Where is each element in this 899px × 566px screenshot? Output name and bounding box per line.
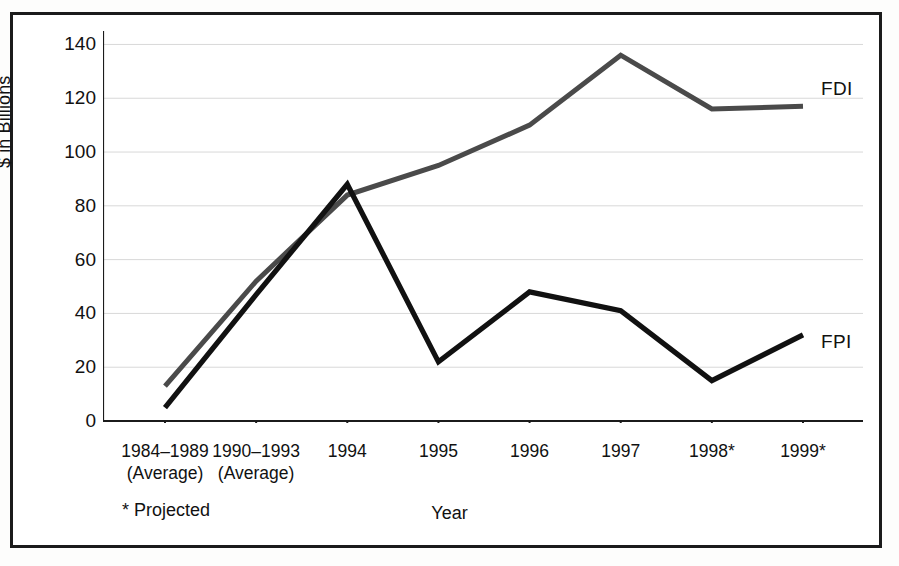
x-tick-line-1: 1984–1989 — [121, 440, 209, 462]
chart-svg — [103, 31, 863, 423]
x-axis-tick-labels: 1984–1989(Average)1990–1993(Average)1994… — [103, 432, 863, 492]
series-label-fdi: FDI — [821, 78, 853, 100]
y-tick-100: 100 — [50, 141, 96, 163]
y-tick-140: 140 — [50, 33, 96, 55]
x-tick-2: 1994 — [328, 440, 367, 462]
x-tick-5: 1997 — [601, 440, 640, 462]
x-tick-line-1: 1994 — [328, 440, 367, 462]
x-tick-0: 1984–1989(Average) — [121, 440, 209, 485]
x-tick-line-1: 1999* — [780, 440, 826, 462]
series-label-fpi: FPI — [821, 331, 851, 353]
plot-area — [103, 31, 863, 423]
x-tick-1: 1990–1993(Average) — [212, 440, 300, 485]
x-tick-line-1: 1995 — [419, 440, 458, 462]
x-tick-4: 1996 — [510, 440, 549, 462]
y-tick-60: 60 — [50, 249, 96, 271]
x-tick-3: 1995 — [419, 440, 458, 462]
x-tick-line-2: (Average) — [212, 462, 300, 484]
x-tick-line-1: 1996 — [510, 440, 549, 462]
y-tick-80: 80 — [50, 195, 96, 217]
x-tick-line-1: 1998* — [689, 440, 735, 462]
y-axis-title: $ in Billions — [0, 0, 15, 168]
y-tick-120: 120 — [50, 87, 96, 109]
y-tick-40: 40 — [50, 302, 96, 324]
x-tick-line-1: 1990–1993 — [212, 440, 300, 462]
projected-footnote: * Projected — [122, 500, 210, 521]
y-axis-tick-labels: 020406080100120140 — [34, 31, 96, 423]
figure-container: $ in Billions 020406080100120140 1984–19… — [0, 0, 899, 566]
x-tick-line-1: 1997 — [601, 440, 640, 462]
y-tick-0: 0 — [50, 410, 96, 432]
y-tick-20: 20 — [50, 356, 96, 378]
x-tick-line-2: (Average) — [121, 462, 209, 484]
x-tick-7: 1999* — [780, 440, 826, 462]
x-tick-6: 1998* — [689, 440, 735, 462]
